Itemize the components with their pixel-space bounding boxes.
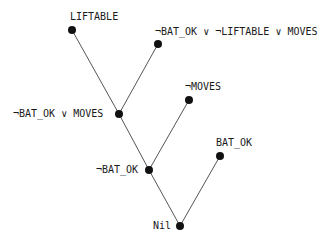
node-not-bat-ok	[145, 166, 153, 174]
label-bat-ok: BAT_OK	[216, 137, 252, 149]
node-clause3	[154, 40, 162, 48]
edge-not-moves-not-bat-ok	[149, 100, 189, 170]
edge-liftable-clause2	[72, 30, 119, 114]
node-not-moves	[185, 96, 193, 104]
node-bat-ok	[216, 152, 224, 160]
label-not-bat-ok: ¬BAT_OK	[96, 164, 138, 176]
edge-bat-ok-nil	[180, 156, 220, 226]
edge-clause2-not-bat-ok	[119, 114, 149, 170]
node-clause2	[115, 110, 123, 118]
label-clause2: ¬BAT_OK ∨ MOVES	[13, 108, 103, 120]
label-not-moves: ¬MOVES	[185, 81, 221, 93]
edge-not-bat-ok-nil	[149, 170, 180, 226]
node-liftable	[68, 26, 76, 34]
edge-clause3-clause2	[119, 44, 158, 114]
node-nil	[176, 222, 184, 230]
label-clause3: ¬BAT_OK ∨ ¬LIFTABLE ∨ MOVES	[155, 26, 318, 38]
label-liftable: LIFTABLE	[70, 11, 118, 23]
label-nil: Nil	[153, 220, 171, 232]
